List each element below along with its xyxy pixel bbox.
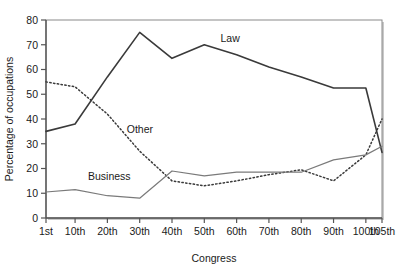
y-tick-label: 10 bbox=[26, 187, 38, 199]
x-tick-label: 30th bbox=[129, 225, 150, 237]
x-tick-label: 10th bbox=[65, 225, 86, 237]
x-tick-label: 20th bbox=[97, 225, 118, 237]
x-tick-label: 80th bbox=[291, 225, 312, 237]
line-chart: 01020304050607080 1st10th20th30th40th50t… bbox=[0, 0, 399, 269]
x-tick-label: 70th bbox=[259, 225, 280, 237]
x-axis-title: Congress bbox=[192, 252, 237, 264]
plot-area bbox=[46, 20, 382, 218]
y-axis-title: Percentage of occupations bbox=[3, 57, 15, 181]
y-tick-label: 40 bbox=[26, 113, 38, 125]
y-tick-label: 0 bbox=[32, 212, 38, 224]
chart-figure: 01020304050607080 1st10th20th30th40th50t… bbox=[0, 0, 399, 269]
x-tick-label: 90th bbox=[323, 225, 344, 237]
y-axis: 01020304050607080 bbox=[26, 14, 46, 224]
y-tick-label: 20 bbox=[26, 162, 38, 174]
y-tick-label: 80 bbox=[26, 14, 38, 26]
y-tick-label: 70 bbox=[26, 39, 38, 51]
x-tick-label: 40th bbox=[162, 225, 183, 237]
x-tick-label: 1st bbox=[39, 225, 53, 237]
y-tick-label: 30 bbox=[26, 138, 38, 150]
x-tick-label: 50th bbox=[194, 225, 215, 237]
y-tick-label: 60 bbox=[26, 63, 38, 75]
x-tick-label: 105th bbox=[369, 225, 395, 237]
x-tick-label: 60th bbox=[226, 225, 247, 237]
series-label-law: Law bbox=[220, 32, 240, 44]
series-label-business: Business bbox=[88, 170, 131, 182]
series-label-other: Other bbox=[127, 123, 154, 135]
x-axis: 1st10th20th30th40th50th60th70th80th90th1… bbox=[39, 218, 395, 237]
y-tick-label: 50 bbox=[26, 88, 38, 100]
